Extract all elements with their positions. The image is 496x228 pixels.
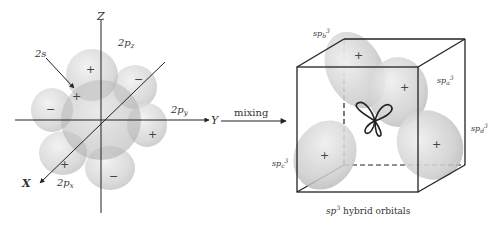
s-center-sign: + xyxy=(72,90,81,103)
mixing-label: mixing xyxy=(234,107,269,118)
px-front-sign: + xyxy=(60,158,69,171)
sp3-b-label: spb3 xyxy=(313,27,330,39)
sp3-d-sign: + xyxy=(432,138,441,151)
pz-main: 2p xyxy=(117,37,131,48)
sp3-c-label: spc3 xyxy=(272,157,289,169)
sp3-a-label: spa3 xyxy=(437,74,454,86)
sp3-d-label: spd3 xyxy=(471,122,488,134)
py-subscript: y xyxy=(183,109,189,117)
figure-caption: sp3 hybrid orbitals xyxy=(326,204,411,216)
caption-prefix: sp xyxy=(326,206,337,216)
small-lobe-lower-right xyxy=(375,121,381,136)
y-axis-label: Y xyxy=(211,114,220,127)
sp3-a-superscript: 3 xyxy=(450,74,454,81)
pz-subscript: z xyxy=(130,42,135,50)
sp3-c-superscript: 3 xyxy=(285,157,289,164)
small-lobe-lower-left xyxy=(365,121,375,133)
px-subscript: x xyxy=(70,182,74,190)
cube-top-right-diagonal xyxy=(418,39,465,67)
sp3-c-main: sp xyxy=(272,159,281,168)
sp3-c-sign: + xyxy=(320,149,329,162)
px-back-sign: − xyxy=(134,73,143,86)
py-orbital-label: 2py xyxy=(170,104,189,117)
caption-suffix: hybrid orbitals xyxy=(340,206,411,216)
pz-bottom-sign: − xyxy=(109,170,118,183)
py-left-sign: − xyxy=(46,103,55,116)
orbital-hybridization-diagram: Z Y X 2s 2pz 2py 2px + + − − + + − mixin… xyxy=(0,0,496,228)
pz-orbital-label: 2pz xyxy=(117,37,135,50)
py-right-sign: + xyxy=(148,128,157,141)
pz-top-sign: + xyxy=(86,63,95,76)
mixing-arrow-group: mixing xyxy=(221,107,286,121)
px-orbital-label: 2px xyxy=(56,177,74,190)
sp3-b-superscript: 3 xyxy=(326,27,330,34)
px-main: 2p xyxy=(56,177,70,188)
s-orbital-label: 2s xyxy=(34,48,47,59)
sp3-a-sign: + xyxy=(400,81,409,94)
py-main: 2p xyxy=(170,104,184,115)
sp3-b-main: sp xyxy=(313,29,322,38)
atomic-orbitals-figure: Z Y X 2s 2pz 2py 2px + + − − + + − xyxy=(15,10,220,213)
sp3-a-main: sp xyxy=(437,76,446,85)
x-axis-label: X xyxy=(21,177,31,190)
sp3-d-superscript: 3 xyxy=(484,122,488,129)
sp3-b-sign: + xyxy=(354,49,363,62)
sp3-d-main: sp xyxy=(471,124,480,133)
z-axis-label: Z xyxy=(96,10,105,23)
hybrid-orbitals-figure: + + + + spb3 spa3 spd3 spc3 sp3 hybrid o… xyxy=(272,22,488,216)
